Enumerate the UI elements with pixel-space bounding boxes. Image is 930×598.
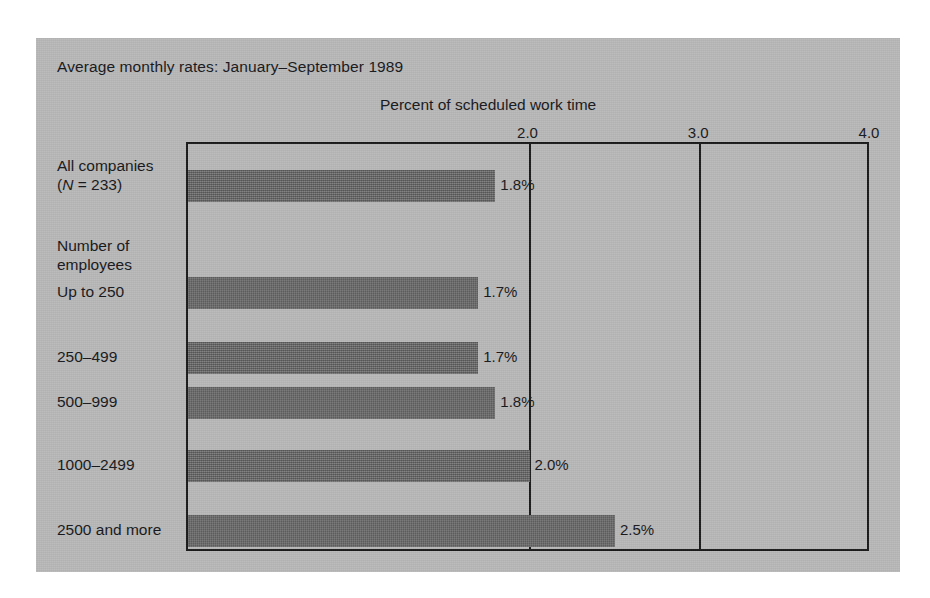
bar <box>188 450 530 482</box>
plot-area <box>186 142 869 551</box>
bar <box>188 170 495 202</box>
category-label: 1000–2499 <box>57 455 135 474</box>
x-tick-label-3-0: 3.0 <box>688 124 709 141</box>
category-label-all-companies: All companies(N = 233) <box>57 156 154 194</box>
category-label: 250–499 <box>57 347 117 366</box>
group-heading-number-of-employees: Number ofemployees <box>57 236 132 274</box>
gridline-2-0 <box>529 144 531 549</box>
category-label-line2: (N = 233) <box>57 175 154 194</box>
group-heading-line2: employees <box>57 255 132 274</box>
bar <box>188 387 495 419</box>
sample-size-symbol: N <box>62 176 73 193</box>
figure-title: Average monthly rates: January–September… <box>57 58 403 76</box>
category-label: 2500 and more <box>57 520 161 539</box>
category-label: Up to 250 <box>57 282 124 301</box>
x-tick-label-2-0: 2.0 <box>517 124 538 141</box>
category-label-line1: All companies <box>57 156 154 175</box>
figure-panel: Average monthly rates: January–September… <box>36 38 900 572</box>
group-heading-line1: Number of <box>57 236 132 255</box>
bar <box>188 277 478 309</box>
bar <box>188 515 615 547</box>
x-axis-title: Percent of scheduled work time <box>380 96 596 114</box>
x-tick-label-4-0: 4.0 <box>859 124 880 141</box>
bar <box>188 342 478 374</box>
gridline-3-0 <box>699 144 701 549</box>
category-label: 500–999 <box>57 392 117 411</box>
